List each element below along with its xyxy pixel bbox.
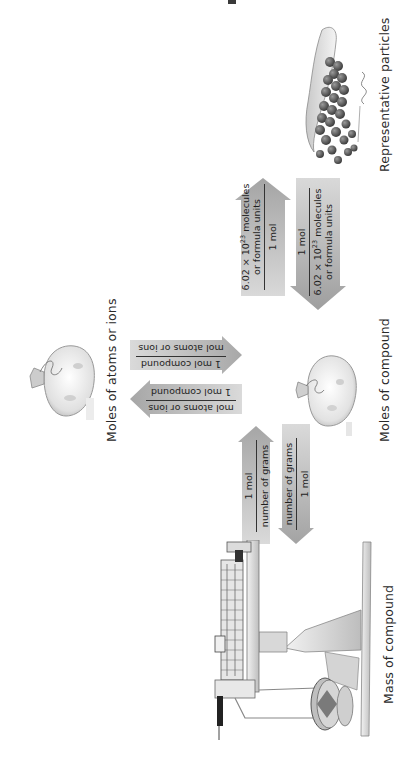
label-moles-of-atoms-or-ions: Moles of atoms or ions <box>104 299 119 443</box>
fraction-bar <box>146 400 236 401</box>
balance-scale-icon <box>205 540 380 745</box>
fraction-numerator: mol atoms or ions <box>146 403 235 414</box>
fraction-moles-to-mass: number of grams 1 mol <box>283 438 310 530</box>
fraction-denominator: mol atoms or ions <box>136 343 225 354</box>
fraction-numerator: number of grams <box>283 441 294 527</box>
fraction-atoms-to-compound-text: 1 mol compound mol atoms or ions <box>136 340 226 370</box>
fraction-mass-to-moles: 1 mol number of grams <box>243 440 270 532</box>
fraction-bar <box>309 188 310 296</box>
fraction-numerator: 1 mol compound <box>139 359 223 370</box>
fraction-bar <box>136 356 226 357</box>
fraction-compound-to-atoms-text: mol atoms or ions 1 mol compound <box>146 384 236 414</box>
fraction-numerator: 1 mol <box>296 227 307 258</box>
moles-compound-illustration <box>294 346 360 436</box>
label-mass-of-compound: Mass of compound <box>381 585 396 704</box>
fraction-numerator: 1 mol <box>243 471 254 502</box>
balance-illustration <box>205 540 380 745</box>
mole-bag-icon <box>22 338 96 422</box>
cropped-title-fragment <box>228 0 236 4</box>
fraction-denominator: 1 mol compound <box>149 387 233 398</box>
fraction-denominator: 6.02 × 1023 molecules or formula units <box>312 187 334 298</box>
fraction-denominator: number of grams <box>259 443 270 529</box>
moles-atoms-illustration <box>22 338 96 422</box>
fraction-denominator: 1 mol <box>299 469 310 500</box>
fraction-bar <box>256 440 257 532</box>
particles-pile-icon <box>300 22 372 172</box>
fraction-bar <box>296 438 297 530</box>
label-moles-of-compound: Moles of compound <box>377 318 392 442</box>
fraction-bar <box>264 184 265 290</box>
label-representative-particles: Representative particles <box>377 18 392 172</box>
particles-illustration <box>300 22 372 172</box>
fraction-numerator: 6.02 × 1023 molecules or formula units <box>240 182 262 293</box>
mole-bag-icon <box>294 346 360 436</box>
fraction-denominator: 1 mol <box>267 222 278 253</box>
fraction-particles-to-moles: 1 mol 6.02 × 1023 molecules or formula u… <box>296 188 334 296</box>
fraction-moles-to-particles: 6.02 × 1023 molecules or formula units 1… <box>240 184 278 290</box>
